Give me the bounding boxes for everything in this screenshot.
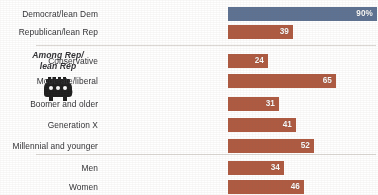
bar-row: Generation X41 xyxy=(0,117,378,133)
bar-row: Millennial and younger52 xyxy=(0,138,378,154)
bar-category-label: Men xyxy=(0,160,98,176)
bar-row: Conservative24 xyxy=(0,53,378,69)
bar-row: Women46 xyxy=(0,179,378,195)
bar-value-label: 46 xyxy=(278,180,300,194)
bar-category-label: Boomer and older xyxy=(0,96,98,112)
bar-row: Boomer and older31 xyxy=(0,96,378,112)
bar-row: Moderate/liberal65 xyxy=(0,73,378,89)
bar-category-label: Women xyxy=(0,179,98,195)
bar-value-label: 34 xyxy=(258,161,280,175)
bar-category-label: Millennial and younger xyxy=(0,138,98,154)
bar-row: Democrat/lean Dem90% xyxy=(0,6,378,22)
bar-track: 31 xyxy=(228,97,378,111)
bar-value-label: 65 xyxy=(310,74,332,88)
bar-track: 52 xyxy=(228,139,378,153)
bar-value-label: 39 xyxy=(267,25,289,39)
bar-track: 39 xyxy=(228,25,378,39)
bar-track: 65 xyxy=(228,74,378,88)
bar-row: Republican/lean Rep39 xyxy=(0,24,378,40)
bar-chart: Among Rep/ lean Rep Democrat/lean Dem90%… xyxy=(0,0,378,195)
bar-category-label: Republican/lean Rep xyxy=(0,24,98,40)
bar-track: 24 xyxy=(228,54,378,68)
group-divider-gender xyxy=(36,154,376,155)
bar-track: 34 xyxy=(228,161,378,175)
bar-track: 90% xyxy=(228,7,378,21)
bar-value-label: 31 xyxy=(253,97,275,111)
bar-track: 46 xyxy=(228,180,378,194)
group-divider-party xyxy=(36,45,376,46)
bar-row: Men34 xyxy=(0,160,378,176)
bar-category-label: Democrat/lean Dem xyxy=(0,6,98,22)
bar-value-label: 90% xyxy=(351,7,373,21)
bar-track: 41 xyxy=(228,118,378,132)
bar-value-label: 41 xyxy=(270,118,292,132)
bar-value-label: 52 xyxy=(288,139,310,153)
bar-value-label: 24 xyxy=(242,54,264,68)
bar-category-label: Moderate/liberal xyxy=(0,73,98,89)
bar-category-label: Generation X xyxy=(0,117,98,133)
bar-category-label: Conservative xyxy=(0,53,98,69)
